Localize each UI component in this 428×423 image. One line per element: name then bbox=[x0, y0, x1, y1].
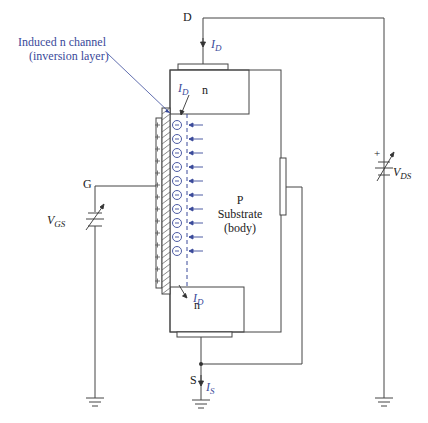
ground-source bbox=[192, 400, 210, 408]
terminal-source-label: S bbox=[190, 374, 197, 386]
annotation-leader bbox=[108, 54, 170, 113]
terminal-drain-label: D bbox=[183, 11, 192, 23]
ground-vds bbox=[375, 398, 393, 406]
id-main-label: ID bbox=[211, 38, 222, 53]
ground-gate bbox=[86, 398, 104, 406]
is-label: IS bbox=[206, 381, 215, 396]
terminal-gate-label: G bbox=[83, 178, 92, 190]
vgs-label: VGS bbox=[47, 214, 65, 229]
drain-contact bbox=[178, 64, 228, 70]
substrate-label: P Substrate (body) bbox=[212, 193, 268, 235]
body-contact bbox=[280, 158, 286, 215]
substrate-line2: Substrate bbox=[212, 207, 268, 221]
id-top-label: ID bbox=[178, 82, 189, 97]
annotation-line2: (inversion layer) bbox=[29, 50, 109, 62]
source-contact bbox=[177, 332, 232, 337]
source-junction bbox=[199, 362, 203, 366]
substrate-line1: P bbox=[212, 193, 268, 207]
id-bottom-label: ID bbox=[193, 292, 204, 307]
gate-plate bbox=[156, 118, 162, 288]
drain-region-label: n bbox=[202, 84, 208, 96]
vds-label: VDS bbox=[393, 166, 411, 181]
vds-plus-sign: + bbox=[374, 148, 380, 159]
substrate-line3: (body) bbox=[212, 221, 268, 235]
annotation-line1: Induced n channel bbox=[18, 36, 106, 48]
